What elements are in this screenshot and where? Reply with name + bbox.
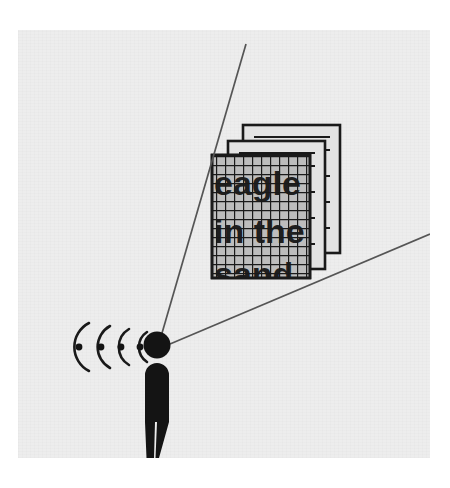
grid-overlay [212, 155, 310, 278]
illustration-svg: eagle in the sand [18, 30, 430, 458]
illustration-canvas: eagle in the sand [0, 0, 450, 488]
signal-dot-2 [118, 344, 125, 351]
signal-dot-1 [137, 344, 144, 351]
person-figure [144, 332, 171, 459]
signal-dots [76, 344, 144, 351]
illustration-panel: eagle in the sand [18, 30, 430, 458]
signal-waves [74, 323, 147, 371]
signal-dot-4 [76, 344, 83, 351]
person-body [145, 363, 169, 458]
signal-dot-3 [98, 344, 105, 351]
person-head [144, 332, 171, 359]
document-stack: eagle in the sand [212, 125, 340, 293]
document-page-front: eagle in the sand [212, 155, 310, 293]
